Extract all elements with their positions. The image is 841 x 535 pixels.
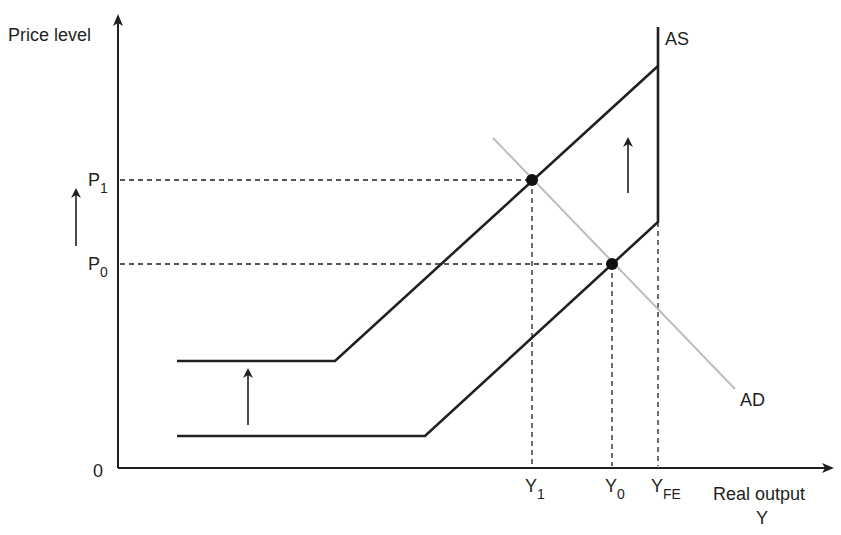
y1-label: Y1 bbox=[525, 476, 545, 502]
y-axis-label: Price level bbox=[8, 25, 91, 45]
p1-label: P1 bbox=[88, 170, 108, 196]
guide-lines bbox=[120, 180, 658, 466]
y0-label: Y0 bbox=[605, 476, 625, 502]
x-axis-symbol: Y bbox=[756, 508, 768, 528]
ad-label: AD bbox=[740, 390, 765, 410]
equilibrium-new bbox=[526, 174, 538, 186]
yfe-label: YFE bbox=[651, 476, 681, 502]
origin-label: 0 bbox=[93, 461, 103, 481]
x-axis-label: Real output bbox=[713, 484, 805, 504]
equilibrium-initial bbox=[606, 258, 618, 270]
as-curve-shifted bbox=[177, 66, 658, 361]
p0-label: P0 bbox=[88, 254, 108, 280]
as-curve-initial bbox=[177, 27, 658, 436]
as-label: AS bbox=[665, 29, 689, 49]
as-ad-chart: Price level 0 P1 P0 Y1 Y0 YFE AS AD Real… bbox=[0, 0, 841, 535]
